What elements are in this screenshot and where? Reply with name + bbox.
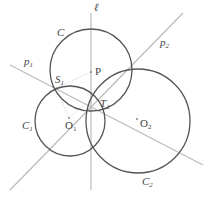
label-C1: C1 xyxy=(22,120,33,133)
geometry-diagram: ℓ C p1 p2 P S1 T1 C1 O1 O2 C2 xyxy=(0,0,212,197)
label-O2: O2 xyxy=(140,118,151,131)
label-T1: T1 xyxy=(100,98,110,111)
point-P xyxy=(90,71,92,73)
label-ell: ℓ xyxy=(94,2,99,13)
label-C2: C2 xyxy=(142,176,153,189)
circle-C2 xyxy=(86,69,190,173)
point-O2 xyxy=(136,118,138,120)
label-O1: O1 xyxy=(65,120,76,133)
label-p1: p1 xyxy=(24,56,33,69)
label-P: P xyxy=(95,66,101,77)
line-p2 xyxy=(10,13,183,190)
label-C: C xyxy=(57,27,64,38)
label-p2: p2 xyxy=(160,37,169,50)
label-S1: S1 xyxy=(55,74,64,87)
